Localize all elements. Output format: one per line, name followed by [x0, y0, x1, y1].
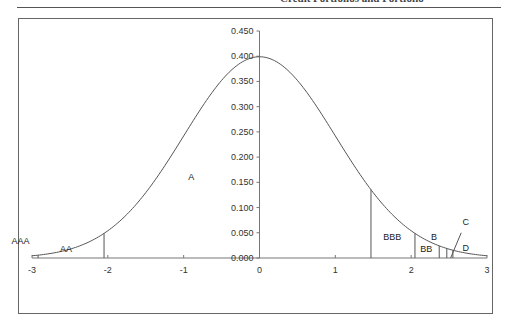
x-tick-label: 1 [333, 265, 338, 275]
x-tick-label: 2 [409, 265, 414, 275]
region-label-a: A [188, 172, 194, 182]
x-tick-label: -3 [28, 265, 36, 275]
rating-thresholds [38, 190, 461, 258]
y-tick-label: 0.300 [231, 102, 254, 112]
x-tick-label: -1 [180, 265, 188, 275]
x-tick-label: 0 [257, 265, 262, 275]
leader-line [451, 233, 462, 258]
region-label-aa: AA [60, 244, 72, 254]
region-label-bb: BB [420, 244, 432, 254]
y-tick-label: 0.450 [231, 26, 254, 36]
y-tick-label: 0.150 [231, 177, 254, 187]
region-label-bbb: BBB [383, 232, 401, 242]
region-label-b: B [431, 232, 437, 242]
x-tick-label: -2 [104, 265, 112, 275]
y-tick-label: 0.000 [231, 253, 254, 263]
y-tick-label: 0.250 [231, 127, 254, 137]
normal-distribution-chart: -3-2-101230.0000.0500.1000.1500.2000.250… [0, 0, 515, 328]
x-tick-label: 3 [484, 265, 489, 275]
region-label-d: D [463, 243, 470, 253]
y-tick-label: 0.050 [231, 228, 254, 238]
y-tick-label: 0.100 [231, 203, 254, 213]
y-tick-label: 0.400 [231, 51, 254, 61]
y-tick-label: 0.350 [231, 76, 254, 86]
region-label-c: C [463, 217, 470, 227]
region-label-aaa: AAA [12, 236, 30, 246]
y-tick-label: 0.200 [231, 152, 254, 162]
